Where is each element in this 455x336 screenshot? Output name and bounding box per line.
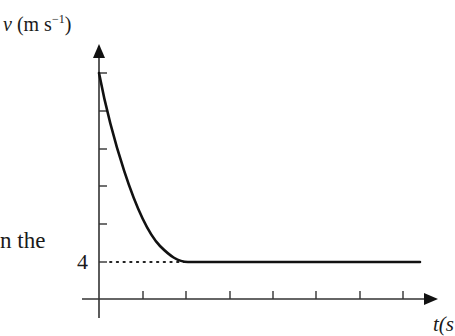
y-axis-arrow-icon bbox=[93, 44, 105, 58]
velocity-curve bbox=[99, 73, 420, 262]
velocity-time-plot bbox=[0, 0, 455, 336]
x-ticks bbox=[143, 291, 403, 299]
x-axis-arrow-icon bbox=[424, 293, 438, 305]
